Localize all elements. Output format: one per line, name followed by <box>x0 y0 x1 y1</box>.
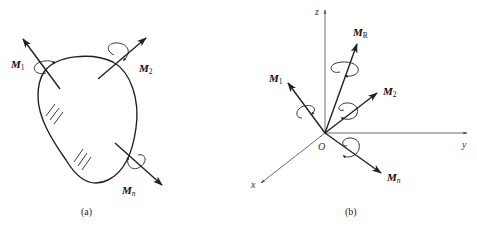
y-axis-label: y <box>461 139 467 150</box>
svg-text:Mn: Mn <box>121 184 136 198</box>
moment-mn-a: Mn <box>115 143 162 198</box>
m1-arrow-shaft <box>23 39 60 89</box>
moment-mn-b: Mn <box>325 133 401 185</box>
origin-label: O <box>318 141 325 152</box>
caption-b: (b) <box>345 206 357 218</box>
figure-a: M1 M2 Mn (a) <box>10 38 162 218</box>
caption-a: (a) <box>81 206 92 218</box>
rigid-body-outline <box>38 56 137 183</box>
m2-subscript-a: 2 <box>149 67 153 76</box>
mn-b-arrow-shaft <box>325 133 381 173</box>
svg-text:M1: M1 <box>268 72 283 86</box>
mr-curl-icon <box>331 62 358 76</box>
figure-b: z y x O MR M1 M2 <box>250 6 467 218</box>
svg-text:M1: M1 <box>10 58 25 72</box>
mn-arrow-shaft <box>115 143 162 185</box>
mn-subscript-a: n <box>132 189 136 198</box>
m1-subscript-b: 1 <box>279 77 283 86</box>
hatch-marks-upper <box>46 104 63 124</box>
z-axis-label: z <box>314 6 319 17</box>
m1-subscript-a: 1 <box>21 63 25 72</box>
m2-subscript-b: 2 <box>393 90 397 99</box>
m2-b-curl-icon <box>339 103 358 119</box>
m2-curl-icon <box>108 43 128 60</box>
svg-text:M2: M2 <box>138 62 153 76</box>
svg-text:MR: MR <box>352 26 368 40</box>
svg-text:M2: M2 <box>382 85 397 99</box>
x-axis-label: x <box>250 179 256 190</box>
figure-canvas: M1 M2 Mn (a) z y x <box>0 0 477 231</box>
mr-subscript-b: R <box>363 31 368 40</box>
mn-subscript-b: n <box>397 176 401 185</box>
moment-m1-b: M1 <box>268 72 325 133</box>
m1-b-arrow-shaft <box>288 83 325 133</box>
svg-text:Mn: Mn <box>386 171 401 185</box>
mr-arrow-shaft <box>325 44 357 133</box>
x-axis <box>261 133 325 183</box>
moment-m2-b: M2 <box>325 85 397 133</box>
hatch-marks-lower <box>74 149 91 170</box>
